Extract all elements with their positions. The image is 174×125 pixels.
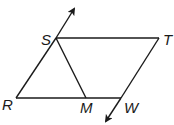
segment-TW xyxy=(121,38,159,98)
geometry-diagram: S T R M W xyxy=(0,0,174,125)
diagram-svg: S T R M W xyxy=(0,0,174,125)
label-S: S xyxy=(41,31,51,48)
ray-TW-arrow xyxy=(106,98,121,121)
label-R: R xyxy=(2,96,13,113)
label-W: W xyxy=(124,99,140,116)
ray-RS-arrow xyxy=(56,9,74,38)
label-T: T xyxy=(163,31,174,48)
label-M: M xyxy=(80,99,93,116)
segment-SM xyxy=(56,38,86,98)
